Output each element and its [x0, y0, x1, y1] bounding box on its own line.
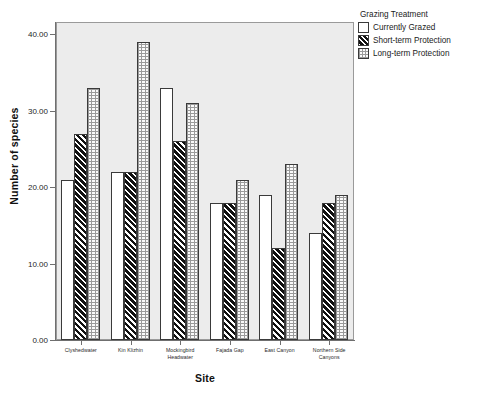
legend-item-label: Short-term Protection — [373, 36, 451, 45]
y-tick-label: 10.00 — [28, 259, 48, 268]
bar — [111, 172, 124, 340]
x-tick-mark — [280, 341, 281, 345]
legend-item-label: Currently Grazed — [373, 23, 435, 32]
x-axis-tick-labels: ClyshedwaterKin KlizhinMockingbirdHeadwa… — [56, 341, 354, 375]
x-tick-mark — [180, 341, 181, 345]
bar-group — [205, 23, 255, 340]
x-tick-mark — [230, 341, 231, 345]
legend-item[interactable]: Long-term Protection — [358, 48, 476, 59]
x-tick-label: Northern SideCanyons — [298, 347, 360, 361]
x-tick-group: Kin Klizhin — [106, 341, 156, 375]
bar — [309, 233, 322, 340]
bar — [173, 141, 186, 340]
bars-layer — [56, 23, 353, 340]
legend-item-label: Long-term Protection — [373, 49, 449, 58]
x-tick-group: Clyshedwater — [56, 341, 106, 375]
bar-chart: 0.0010.0020.0030.0040.00 Number of speci… — [0, 0, 479, 393]
legend: Grazing Treatment Currently GrazedShort-… — [358, 10, 476, 61]
legend-items: Currently GrazedShort-term ProtectionLon… — [358, 22, 476, 59]
x-tick-mark — [329, 341, 330, 345]
y-tick-label: 0.00 — [32, 336, 48, 345]
legend-title: Grazing Treatment — [360, 10, 476, 19]
x-tick-group: MockingbirdHeadwater — [155, 341, 205, 375]
bar — [87, 88, 100, 340]
bar-group — [106, 23, 156, 340]
y-axis-title: Number of species — [8, 56, 20, 256]
bar — [210, 203, 223, 340]
y-tick-label: 30.00 — [28, 106, 48, 115]
bar — [186, 103, 199, 340]
bar — [272, 248, 285, 340]
x-tick-mark — [81, 341, 82, 345]
bar — [74, 134, 87, 340]
bar-group — [56, 23, 106, 340]
x-axis-title: Site — [56, 372, 354, 384]
y-tick-label: 20.00 — [28, 183, 48, 192]
legend-swatch-solid-white — [358, 22, 369, 33]
legend-swatch-dotted-grid — [358, 48, 369, 59]
bar — [160, 88, 173, 340]
y-tick-label: 40.00 — [28, 30, 48, 39]
x-tick-mark — [131, 341, 132, 345]
bar-group — [155, 23, 205, 340]
bar — [236, 180, 249, 340]
bar — [61, 180, 74, 340]
bar — [124, 172, 137, 340]
bar — [137, 42, 150, 340]
bar — [259, 195, 272, 340]
x-tick-group: Fajada Gap — [205, 341, 255, 375]
bar — [335, 195, 348, 340]
x-tick-group: East Canyon — [255, 341, 305, 375]
x-tick-group: Northern SideCanyons — [304, 341, 354, 375]
legend-item[interactable]: Currently Grazed — [358, 22, 476, 33]
legend-item[interactable]: Short-term Protection — [358, 35, 476, 46]
bar — [322, 203, 335, 340]
legend-swatch-diagonal-hatch — [358, 35, 369, 46]
bar — [285, 164, 298, 340]
bar-group — [254, 23, 304, 340]
bar-group — [304, 23, 354, 340]
bar — [223, 203, 236, 340]
